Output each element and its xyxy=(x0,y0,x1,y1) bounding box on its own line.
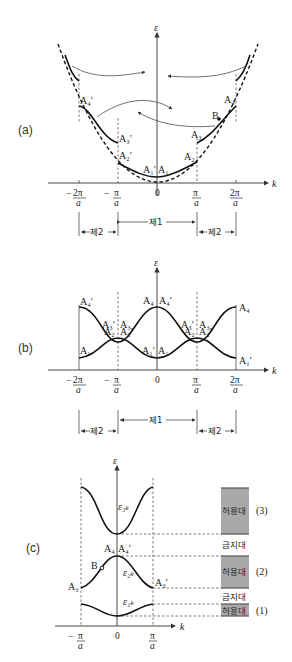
svg-text:π: π xyxy=(193,375,198,385)
panel-c-label: (c) xyxy=(26,541,40,555)
svg-text:−: − xyxy=(66,376,71,386)
svg-text:a: a xyxy=(76,198,81,208)
label-a3: A₃ xyxy=(191,129,202,140)
brillouin-zones-a: 제1 제2 제2 xyxy=(79,212,236,237)
svg-text:−: − xyxy=(104,189,109,199)
forbidden-band-label: 금지대 xyxy=(222,592,246,602)
svg-text:a: a xyxy=(194,198,199,208)
svg-text:A₁: A₁ xyxy=(80,345,91,356)
k-axis-label: k xyxy=(272,178,277,189)
svg-text:A₂′: A₂′ xyxy=(199,326,212,337)
band-2-left-curve xyxy=(79,106,118,143)
svg-text:a: a xyxy=(114,385,119,395)
svg-text:A₂′: A₂′ xyxy=(120,326,133,337)
k-axis-label: k xyxy=(272,365,277,376)
svg-text:A₄′: A₄′ xyxy=(80,296,93,307)
label-epsilon-3k: ε₃ₖ xyxy=(118,501,130,512)
zone-2-left-label: 제2 xyxy=(90,227,103,237)
zone-1-label: 제1 xyxy=(149,217,162,227)
svg-text:π: π xyxy=(114,188,119,198)
energy-band-diagram: 허용대 (3) 금지대 허용대 (2) 금지대 허용대 (1) xyxy=(221,488,268,617)
energy-axis-label: ε xyxy=(154,257,158,268)
label-a1-prime: A₁′ xyxy=(143,164,156,175)
svg-text:허용대: 허용대 xyxy=(222,567,246,577)
svg-text:2π: 2π xyxy=(230,375,240,385)
tick-labels-b: − 2π a − π a 0 π a 2π a xyxy=(66,375,243,395)
svg-text:(3): (3) xyxy=(256,505,268,517)
svg-text:π: π xyxy=(114,375,119,385)
panel-a: (a) ε k A₄′ A₄ B A₃′ xyxy=(18,22,277,237)
svg-text:a: a xyxy=(233,385,238,395)
zone-2-right-label: 제2 xyxy=(208,227,221,237)
svg-text:A₂: A₂ xyxy=(184,326,195,337)
svg-text:a: a xyxy=(76,385,81,395)
svg-text:허용대: 허용대 xyxy=(222,606,246,616)
panel-a-label: (a) xyxy=(18,123,33,137)
label-a3-prime: A₃′ xyxy=(119,133,132,144)
panel-c: (c) ε k ε₃ₖ A₄ A₄′ B ε₂ₖ A₃ A₃′ ε₁ₖ − π … xyxy=(26,455,268,651)
label-a2: A₂ xyxy=(184,151,195,162)
panel-b: (b) ε k A₄′ A₄ A₄′ A₄ A₃′ A₃ A₃′ A₃ A₂ A… xyxy=(18,257,277,436)
band-3-right-curve xyxy=(236,55,250,81)
label-a4-prime: A₄′ xyxy=(80,95,93,106)
svg-text:허용대: 허용대 xyxy=(222,506,246,516)
label-epsilon-2k: ε₂ₖ xyxy=(123,567,135,578)
label-epsilon-1k: ε₁ₖ xyxy=(123,596,135,607)
svg-text:0: 0 xyxy=(155,375,160,385)
mapping-arrow-left-lower xyxy=(97,100,172,117)
svg-text:−: − xyxy=(68,632,73,642)
tick-labels-c: − π a 0 π a xyxy=(68,631,157,651)
forbidden-band-label: 금지대 xyxy=(222,540,246,550)
label-a3: A₃ xyxy=(68,581,79,592)
svg-text:π: π xyxy=(150,631,155,641)
mapping-arrow-right-lower xyxy=(138,112,215,127)
svg-text:A₁′: A₁′ xyxy=(142,345,155,356)
tick-labels-a: − 2π a − π a 0 π a 2π a xyxy=(66,188,243,208)
point-b-marker xyxy=(100,566,104,570)
svg-text:2π: 2π xyxy=(230,188,240,198)
zone-1-label: 제1 xyxy=(149,415,162,425)
svg-text:A₄: A₄ xyxy=(239,302,250,313)
zone-2-right-label: 제2 xyxy=(208,426,221,436)
mapping-arrow-right-upper xyxy=(168,66,246,77)
svg-text:A₄: A₄ xyxy=(143,295,154,306)
svg-text:a: a xyxy=(150,641,155,651)
band-structure-figure: (a) ε k A₄′ A₄ B A₃′ xyxy=(0,0,292,662)
svg-text:a: a xyxy=(78,641,83,651)
svg-text:−: − xyxy=(104,376,109,386)
svg-text:0: 0 xyxy=(115,631,120,641)
k-axis-label: k xyxy=(180,621,185,632)
svg-text:A₄′: A₄′ xyxy=(159,295,172,306)
label-a1: A₁ xyxy=(158,164,169,175)
svg-text:2π: 2π xyxy=(73,375,83,385)
mapping-arrow-left-upper xyxy=(72,66,145,76)
svg-text:(2): (2) xyxy=(256,566,268,578)
label-a3-prime: A₃′ xyxy=(155,577,168,588)
svg-text:−: − xyxy=(66,189,71,199)
panel-b-label: (b) xyxy=(18,341,33,355)
svg-text:π: π xyxy=(78,631,83,641)
label-a4-prime: A₄′ xyxy=(118,543,131,554)
svg-text:2π: 2π xyxy=(73,188,83,198)
brillouin-zones-b: 제1 제2 제2 xyxy=(79,410,236,436)
zone-2-left-label: 제2 xyxy=(90,426,103,436)
label-a2-prime: A₂′ xyxy=(119,150,132,161)
label-b: B xyxy=(212,110,219,121)
svg-text:0: 0 xyxy=(155,188,160,198)
svg-text:(1): (1) xyxy=(256,605,268,617)
svg-text:A₂: A₂ xyxy=(104,326,115,337)
svg-text:π: π xyxy=(193,188,198,198)
energy-axis-label: ε xyxy=(113,455,117,466)
svg-text:a: a xyxy=(194,385,199,395)
svg-text:a: a xyxy=(233,198,238,208)
label-a4: A₄ xyxy=(224,94,235,105)
label-a4: A₄ xyxy=(104,543,115,554)
svg-text:A₁: A₁ xyxy=(158,345,169,356)
energy-axis-label: ε xyxy=(154,22,158,33)
svg-text:A₁′: A₁′ xyxy=(239,355,252,366)
svg-text:a: a xyxy=(114,198,119,208)
label-b: B xyxy=(91,560,98,571)
